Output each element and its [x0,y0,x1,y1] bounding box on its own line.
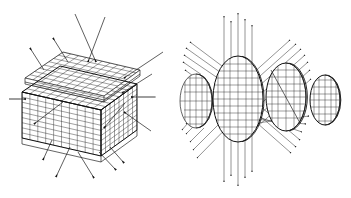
disc-1 [180,72,218,130]
figure-root [0,0,351,198]
figure-canvas [0,0,351,198]
